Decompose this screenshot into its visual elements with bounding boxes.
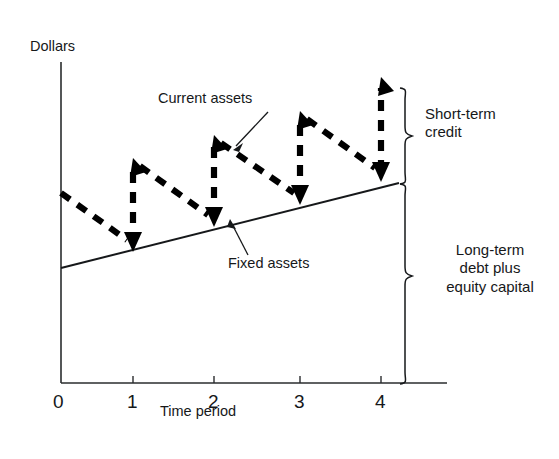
current-assets-label: Current assets: [158, 90, 252, 108]
short-term-credit-label-line1: Short-term: [425, 105, 496, 123]
short-term-credit-label: Short-term credit: [425, 105, 496, 142]
short-term-brace: [400, 88, 412, 184]
arrowhead-up-4: [378, 77, 394, 96]
x-tick-label-4: 4: [375, 390, 386, 413]
segment-decline-1-2: [140, 166, 208, 215]
x-tick-label-0: 0: [53, 390, 64, 413]
current-assets-leader-line: [236, 112, 268, 146]
long-term-debt-label-line1: Long-term: [424, 241, 556, 259]
segment-decline-2-3: [221, 143, 294, 193]
finance-chart-figure: Dollars Time period 0 1 2 3 4 Current as…: [0, 0, 559, 459]
arrowhead-down-2: [205, 207, 223, 227]
segment-decline-3-4: [307, 119, 375, 168]
arrowhead-down-4: [372, 162, 390, 182]
long-term-debt-label-line2: debt plus: [424, 259, 556, 277]
x-tick-label-3: 3: [294, 390, 305, 413]
x-axis-ticks: [133, 376, 381, 383]
arrowhead-down-3: [291, 185, 309, 205]
segment-decline-0-1: [61, 193, 127, 240]
x-tick-label-1: 1: [127, 390, 138, 413]
long-term-debt-label-line3: equity capital: [424, 278, 556, 296]
x-axis-title: Time period: [160, 403, 236, 421]
current-assets-sawtooth: [61, 88, 381, 243]
fixed-assets-leader-line: [232, 224, 248, 255]
chart-canvas: [0, 0, 559, 459]
y-axis-title: Dollars: [30, 38, 75, 56]
x-tick-label-2: 2: [208, 390, 219, 413]
long-term-brace: [400, 184, 412, 384]
short-term-credit-label-line2: credit: [425, 123, 496, 141]
sawtooth-arrowheads-down: [124, 162, 390, 252]
fixed-assets-label: Fixed assets: [228, 255, 309, 273]
long-term-debt-label: Long-term debt plus equity capital: [424, 241, 556, 296]
